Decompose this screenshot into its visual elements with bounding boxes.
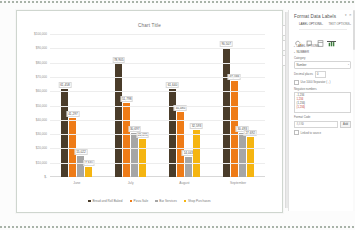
format-code-input[interactable]: #,##0 [294,121,338,129]
format-data-labels-pane: Format Data Labels ▾ ✕ LABEL OPTIONS▾TEX… [288,10,355,211]
gridline [50,77,265,78]
x-axis-category-label: August [179,181,189,185]
chevron-down-icon: ▾ [294,51,295,54]
legend-swatch [130,200,133,203]
legend-swatch [88,200,91,203]
data-label[interactable]: 41,297 [67,111,80,117]
bar-fill [177,112,184,177]
chevron-down-icon: ▾ [322,23,323,26]
checkbox[interactable] [294,130,299,135]
legend-label: Bread and Roll Baked [92,199,122,203]
pane-options-icon[interactable]: ▾ [345,14,347,17]
y-axis-tick-label: $30,000 [36,132,47,136]
legend-item-3[interactable]: Shop Purchases [184,199,211,203]
bar-fill [131,133,138,177]
bar-fill [123,103,130,177]
chart-object[interactable]: Chart Title 61,45841,29715,0227,340June7… [16,10,283,213]
bar-0[interactable]: 90,507 [223,48,230,177]
pane-tab-label: TEXT OPTIONS [328,22,349,26]
legend-item-1[interactable]: Pizza Sale [130,199,149,203]
data-label[interactable]: 51,798 [120,96,133,102]
y-axis-tick-label: $50,000 [36,104,47,108]
bar-fill [61,89,68,177]
x-axis-category-label: July [128,181,134,185]
y-axis-tick-label: $10,000 [36,161,47,165]
pane-tab-1[interactable]: TEXT OPTIONS▾ [328,22,351,26]
fill-line-icon[interactable] [295,33,302,40]
pane-tab-0[interactable]: LABEL OPTIONS▾ [299,22,323,26]
chart-legend[interactable]: Bread and Roll BakedPizza SaleBar Servic… [20,199,279,203]
effects-icon[interactable] [306,33,313,40]
bar-2[interactable]: 14,043 [185,157,192,177]
data-label[interactable]: 15,022 [75,149,88,155]
category-label: Category [294,56,351,60]
y-axis-tick-label: $- [44,175,47,179]
gridline [50,48,265,49]
gridline [50,163,265,164]
negative-number-option-3[interactable]: (1,234) [297,106,349,110]
bar-2[interactable]: 30,493 [239,133,246,177]
bar-3[interactable]: 32,593 [193,130,200,177]
label-options-icon[interactable] [328,33,335,40]
decimal-places-label: Decimal places [294,72,313,76]
pane-scrollbar-thumb[interactable] [353,10,355,50]
bar-2[interactable]: 30,697 [131,133,138,177]
bar-fill [247,137,254,177]
add-format-button[interactable]: Add [340,121,351,129]
plot-area[interactable]: 61,45841,29715,0227,340June78,90551,7983… [50,34,265,177]
gridline [50,148,265,149]
chevron-down-icon: ▾ [350,23,351,26]
bar-fill [223,48,230,177]
section-number-text: NUMBER [297,50,310,54]
use-1000-separator-label: Use 1000 Separator ( , ) [301,80,331,84]
bar-fill [139,139,146,177]
chart-plot-frame: Chart Title 61,45841,29715,0227,340June7… [20,14,279,209]
chart-title[interactable]: Chart Title [20,23,279,28]
excel-chart-screen: Chart Title 61,45841,29715,0227,340June7… [0,0,355,230]
bar-0[interactable]: 61,458 [61,89,68,177]
bar-0[interactable]: 61,640 [169,89,176,177]
negative-numbers-listbox[interactable]: -1,2341,234(1,234)(1,234) [294,92,351,113]
y-axis-tick-label: $90,000 [36,46,47,50]
use-1000-separator-row[interactable]: Use 1000 Separator ( , ) [294,80,351,85]
linked-to-source-row[interactable]: Linked to source [294,130,351,135]
gridline [50,106,265,107]
checkbox[interactable] [294,80,299,85]
pane-body: ▸ LABEL OPTIONS ▾ NUMBER Category Number… [289,40,355,135]
decimal-places-input[interactable]: 0 [315,71,326,78]
y-axis-tick-label: $100,000 [34,32,47,36]
x-axis-category-label: June [73,181,80,185]
gridline [50,134,265,135]
legend-label: Shop Purchases [188,199,211,203]
data-label[interactable]: 32,593 [190,123,203,129]
pane-tab-label: LABEL OPTIONS [299,22,322,26]
y-axis-tick-label: $40,000 [36,118,47,122]
legend-item-2[interactable]: Bar Services [155,199,177,203]
bar-3[interactable]: 27,692 [247,137,254,177]
data-label[interactable]: 61,458 [59,82,72,88]
y-axis-tick-label: $70,000 [36,75,47,79]
data-label[interactable]: 90,507 [220,41,233,47]
legend-label: Pizza Sale [134,199,149,203]
size-properties-icon[interactable] [317,33,324,40]
decimal-places-row: Decimal places 0 [294,71,351,78]
legend-swatch [155,200,158,203]
legend-item-0[interactable]: Bread and Roll Baked [88,199,122,203]
negative-numbers-label: Negative numbers [294,87,351,91]
bar-3[interactable]: 7,340 [85,167,92,177]
gridline [50,120,265,121]
x-axis-category-label: September [230,181,246,185]
pane-tabs: LABEL OPTIONS▾TEXT OPTIONS▾ [294,19,351,26]
section-number[interactable]: ▾ NUMBER [294,50,351,54]
y-axis-tick-label: $80,000 [36,61,47,65]
sheet-top-border [0,1,355,3]
bar-1[interactable]: 45,485 [177,112,184,177]
data-label[interactable]: 61,640 [166,82,179,88]
category-dropdown[interactable]: Number ▾ [294,61,351,69]
bar-1[interactable]: 51,798 [123,103,130,177]
gridline [50,34,265,35]
pane-scrollbar[interactable] [353,10,355,211]
pane-divider [299,29,347,30]
bar-fill [85,167,92,177]
bar-3[interactable]: 26,695 [139,139,146,177]
